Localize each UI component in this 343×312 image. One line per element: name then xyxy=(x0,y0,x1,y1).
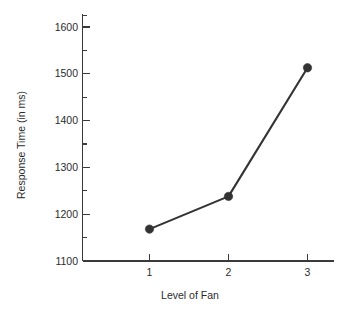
x-tick-label: 1 xyxy=(147,266,153,278)
x-axis-title: Level of Fan xyxy=(161,289,219,301)
x-tick-label: 3 xyxy=(305,266,311,278)
chart-screenshot: 1600 1500 1400 1300 1200 1100 1 2 3 Resp… xyxy=(0,0,343,312)
data-point-level-3 xyxy=(303,64,311,72)
data-point-level-2 xyxy=(224,192,232,200)
x-tick-label: 2 xyxy=(226,266,232,278)
y-tick-label: 1400 xyxy=(55,114,79,126)
line-chart: 1600 1500 1400 1300 1200 1100 1 2 3 Resp… xyxy=(0,0,343,312)
y-tick-label: 1200 xyxy=(55,208,79,220)
chart-background xyxy=(0,0,343,312)
y-tick-label: 1600 xyxy=(55,21,79,33)
y-axis-title: Response Time (in ms) xyxy=(15,91,27,199)
y-tick-label: 1100 xyxy=(55,255,78,267)
data-point-level-1 xyxy=(145,225,153,233)
y-tick-label: 1300 xyxy=(55,161,79,173)
y-tick-label: 1500 xyxy=(55,67,79,79)
